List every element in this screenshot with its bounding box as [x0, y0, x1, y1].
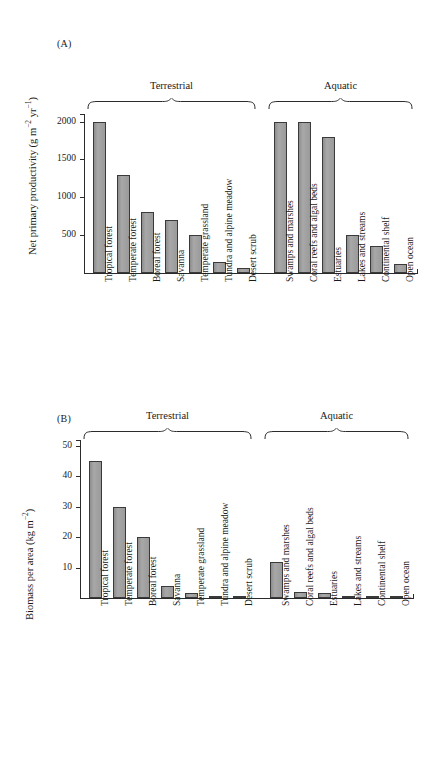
plot-b-y-tick — [76, 537, 80, 538]
plot-b-y-tick — [76, 446, 80, 447]
plot-b-y-tick-label: 20 — [38, 531, 72, 541]
plot-b-y-tick-label: 30 — [38, 501, 72, 511]
plot-b-y-tick-label: 40 — [38, 470, 72, 480]
category-label: Tundra and alpine meadow — [220, 503, 230, 606]
category-label: Temperate grassland — [196, 528, 206, 606]
category-label: Temperate forest — [124, 542, 134, 606]
category-label: Continental shelf — [377, 541, 387, 606]
plot-b-y-tick-label: 10 — [38, 562, 72, 572]
panel-b-y-axis-label-end: ) — [24, 509, 35, 513]
panel-b-plot-area: 1020304050Tropical forestTemperate fores… — [0, 0, 438, 375]
group-bracket — [264, 428, 409, 440]
panel-b-y-axis-label: Biomass per area (kg m−2) — [21, 509, 35, 620]
category-label: Desert scrub — [244, 558, 254, 606]
panel-b-y-axis-label-text: Biomass per area (kg m — [24, 520, 35, 620]
category-label: Swamps and marshes — [281, 524, 291, 606]
plot-b-y-tick — [76, 568, 80, 569]
panel-b-label: (B) — [57, 413, 71, 424]
panel-b-y-axis-exp1: −2 — [21, 512, 30, 520]
category-label: Coral reefs and algal beds — [305, 507, 315, 606]
group-title-terrestrial: Terrestrial — [108, 410, 228, 421]
panel-b: (B) Biomass per area (kg m−2) 1020304050… — [0, 405, 438, 773]
plot-b-x-axis-endcap — [413, 594, 414, 599]
plot-b-y-tick-label: 50 — [38, 440, 72, 450]
category-label: Estuaries — [329, 571, 339, 606]
category-label: Boreal forest — [148, 557, 158, 606]
category-label: Savanna — [172, 574, 182, 606]
plot-b-y-tick — [76, 476, 80, 477]
plot-b-y-tick — [76, 507, 80, 508]
plot-b-y-axis-top-tick — [76, 440, 80, 441]
figure-root: (A) Net primary productivity (g m−2 yr−1… — [0, 0, 438, 773]
plot-b-y-axis — [80, 440, 81, 599]
category-label: Open ocean — [401, 561, 411, 606]
category-label: Lakes and streams — [353, 536, 363, 606]
group-bracket — [83, 428, 252, 440]
group-title-aquatic: Aquatic — [277, 410, 397, 421]
category-label: Tropical forest — [100, 550, 110, 606]
